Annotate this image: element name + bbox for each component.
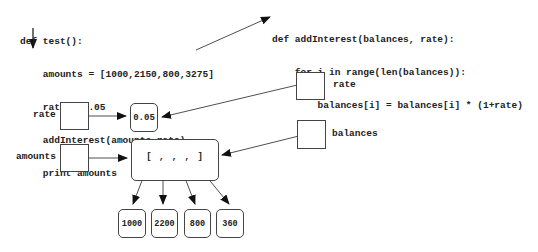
- param-label-balances: balances: [332, 128, 378, 139]
- param-label-rate: rate: [333, 79, 356, 90]
- var-label-rate: rate: [33, 109, 56, 120]
- param-box-rate: [296, 72, 325, 100]
- list-object: [ , , , ]: [131, 139, 219, 181]
- list-item-2: 800: [184, 209, 211, 238]
- code-line: def test():: [20, 36, 214, 47]
- var-label-amounts: amounts: [16, 151, 56, 162]
- rate-value-object: 0.05: [130, 103, 158, 132]
- var-box-rate: [60, 102, 89, 130]
- code-line: balances[i] = balances[i] * (1+rate): [272, 100, 523, 111]
- code-line: amounts = [1000,2150,800,3275]: [20, 69, 214, 80]
- var-box-amounts: [60, 144, 89, 172]
- list-item-1: 2200: [151, 209, 178, 238]
- list-item-0: 1000: [118, 209, 146, 238]
- code-addInterest-function: def addInterest(balances, rate): for i i…: [272, 12, 523, 122]
- code-line: def addInterest(balances, rate):: [272, 34, 523, 45]
- param-box-balances: [297, 120, 326, 149]
- list-item-3: 360: [216, 209, 244, 238]
